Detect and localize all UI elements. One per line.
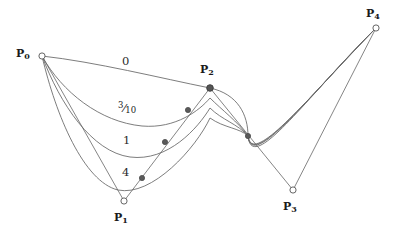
weight-label-3-10: 3⁄10 (118, 101, 136, 115)
control-point-label-p4-sub: 4 (374, 11, 380, 21)
weight-label-1: 1 (123, 135, 130, 147)
curve-weight-1 (42, 28, 376, 157)
knot-marker (162, 139, 167, 144)
knot-marker (185, 107, 190, 112)
control-polygon-line (42, 28, 376, 201)
control-point-marker-p2[interactable] (207, 85, 214, 92)
control-point-label-p1-sub: 1 (122, 215, 128, 225)
control-point-marker-p0[interactable] (39, 53, 45, 59)
control-point-marker-p1[interactable] (121, 198, 127, 204)
curve-group (42, 28, 376, 191)
control-point-label-p3: P3 (283, 201, 297, 213)
weight-label-4: 4 (122, 167, 129, 179)
bspline-figure: P0 P1 P2 P3 P4 0 3⁄10 1 4 (0, 0, 401, 237)
control-point-label-p2-sub: 2 (208, 67, 214, 77)
control-point-label-p3-sub: 3 (291, 204, 297, 214)
knot-marker-group (139, 107, 250, 180)
control-point-marker-group (39, 25, 379, 204)
control-point-label-p0: P0 (16, 48, 30, 60)
control-point-label-p1: P1 (114, 212, 128, 224)
control-point-marker-p3[interactable] (290, 187, 296, 193)
control-point-label-p0-sub: 0 (24, 51, 30, 61)
control-point-label-p2: P2 (200, 64, 214, 76)
knot-marker (139, 175, 144, 180)
control-point-marker-p4[interactable] (373, 25, 379, 31)
control-polygon-group (42, 28, 376, 201)
weight-label-3-10-denominator: 10 (125, 105, 136, 115)
weight-label-0: 0 (122, 56, 129, 68)
curve-canvas (0, 0, 401, 237)
control-point-label-p4: P4 (366, 8, 380, 20)
knot-marker (245, 133, 250, 138)
